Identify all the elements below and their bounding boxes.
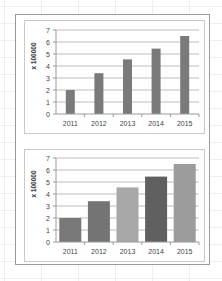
x-tick-label: 2011 xyxy=(63,120,78,127)
y-tick-label: 2 xyxy=(46,87,50,94)
y-tick-label: 7 xyxy=(46,27,50,34)
x-tick-label: 2012 xyxy=(91,248,107,255)
y-tick-label: 6 xyxy=(46,167,50,174)
bar-chart-varied-colors: 01234567x 10000020112012201320142015 xyxy=(25,150,206,263)
y-tick-label: 1 xyxy=(46,99,50,106)
y-tick-label: 4 xyxy=(46,63,50,70)
bar-2015[interactable] xyxy=(180,36,189,114)
x-tick-label: 2015 xyxy=(177,120,193,127)
y-tick-label: 5 xyxy=(46,179,50,186)
bar-2015[interactable] xyxy=(174,164,196,242)
x-tick-label: 2014 xyxy=(148,248,164,255)
y-tick-label: 7 xyxy=(46,155,50,162)
x-tick-label: 2013 xyxy=(120,120,136,127)
y-axis-label: x 100000 xyxy=(30,42,37,69)
bar-2011[interactable] xyxy=(59,218,81,242)
y-tick-label: 5 xyxy=(46,51,50,58)
bar-2014[interactable] xyxy=(152,49,161,114)
x-tick-label: 2011 xyxy=(63,248,78,255)
bar-2014[interactable] xyxy=(145,177,167,242)
y-tick-label: 0 xyxy=(46,111,50,118)
bar-2013[interactable] xyxy=(117,187,139,242)
y-tick-label: 3 xyxy=(46,203,50,210)
bar-2012[interactable] xyxy=(88,201,110,242)
y-tick-label: 4 xyxy=(46,191,50,198)
y-tick-label: 2 xyxy=(46,215,50,222)
chart-bottom[interactable]: 01234567x 10000020112012201320142015 xyxy=(24,149,205,262)
bar-chart-uniform-colors: 01234567x 10000020112012201320142015 xyxy=(25,21,206,135)
bar-2011[interactable] xyxy=(66,90,75,114)
x-tick-label: 2014 xyxy=(148,120,164,127)
x-tick-label: 2013 xyxy=(120,248,136,255)
chart-top[interactable]: 01234567x 10000020112012201320142015 xyxy=(24,20,205,134)
x-tick-label: 2015 xyxy=(177,248,193,255)
y-axis-label: x 100000 xyxy=(30,170,37,197)
x-tick-label: 2012 xyxy=(91,120,107,127)
bar-2012[interactable] xyxy=(94,73,103,114)
y-tick-label: 6 xyxy=(46,39,50,46)
y-tick-label: 1 xyxy=(46,227,50,234)
y-tick-label: 0 xyxy=(46,239,50,246)
y-tick-label: 3 xyxy=(46,75,50,82)
bar-2013[interactable] xyxy=(123,59,132,114)
